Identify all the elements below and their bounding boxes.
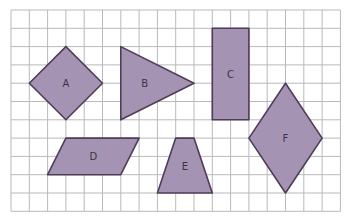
shapes-grid-diagram: A B C D E F — [0, 0, 346, 223]
shape-a: A — [29, 47, 102, 120]
shape-e-label: E — [182, 161, 188, 172]
shape-a-label: A — [62, 78, 69, 89]
shape-f: F — [249, 83, 322, 193]
shape-c-label: C — [227, 69, 234, 80]
shape-b-label: B — [141, 78, 148, 89]
shape-f-label: F — [283, 133, 289, 144]
shape-e: E — [157, 138, 212, 193]
shape-c: C — [212, 28, 249, 120]
shape-d: D — [48, 138, 140, 175]
shape-d-label: D — [89, 151, 97, 162]
